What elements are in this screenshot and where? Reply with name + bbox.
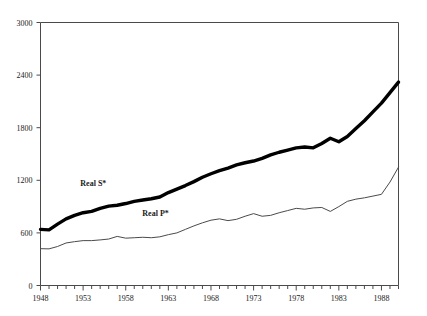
y-tick-label: 3000 — [17, 19, 33, 28]
chart-background — [0, 0, 427, 316]
y-tick-label: 1800 — [17, 124, 33, 133]
x-tick-label: 1983 — [331, 294, 347, 303]
line-chart: 06001200180024003000 1948195319581963196… — [0, 0, 427, 316]
x-tick-label: 1988 — [373, 294, 389, 303]
series-label-1: Real S* — [80, 179, 106, 188]
y-tick-label: 2400 — [17, 71, 33, 80]
x-tick-label: 1978 — [288, 294, 304, 303]
series-label-2: Real P* — [142, 209, 168, 218]
chart-container: 06001200180024003000 1948195319581963196… — [0, 0, 427, 316]
y-tick-label: 0 — [29, 282, 33, 291]
y-tick-label: 600 — [21, 229, 33, 238]
x-tick-label: 1968 — [203, 294, 219, 303]
x-tick-label: 1948 — [33, 294, 49, 303]
x-tick-label: 1973 — [246, 294, 262, 303]
y-tick-label: 1200 — [17, 176, 33, 185]
x-tick-label: 1953 — [75, 294, 91, 303]
x-axis-tick-labels: 194819531958196319681973197819831988 — [33, 294, 390, 303]
x-tick-label: 1963 — [160, 294, 176, 303]
x-tick-label: 1958 — [118, 294, 134, 303]
